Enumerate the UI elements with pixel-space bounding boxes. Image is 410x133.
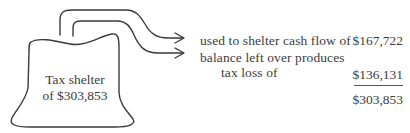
- arrow-to-cash-flow-shelter: [60, 10, 183, 38]
- cash-flow-shelter-amount: $167,722: [343, 33, 403, 48]
- tax-shelter-label-line1: Tax shelter: [30, 72, 120, 88]
- tax-loss-description-line2: tax loss of: [221, 65, 278, 80]
- tax-shelter-label: Tax shelter of $303,853: [30, 72, 120, 104]
- total-amount: $303,853: [343, 92, 403, 107]
- tax-loss-description-line1: balance left over produces: [200, 50, 345, 65]
- cash-flow-shelter-description: used to shelter cash flow of: [200, 33, 351, 48]
- tax-loss-amount: $136,131: [343, 67, 403, 82]
- total-divider: [354, 85, 403, 86]
- tax-shelter-label-line2: of $303,853: [30, 88, 120, 104]
- arrow-to-tax-loss: [73, 21, 183, 53]
